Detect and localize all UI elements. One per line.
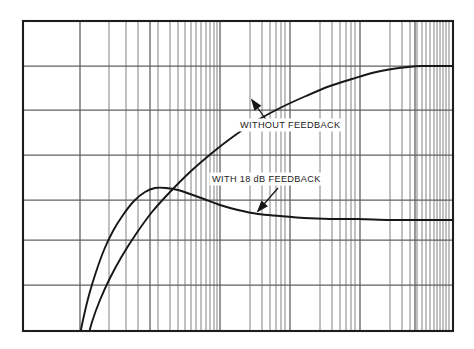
frequency-response-chart: WITHOUT FEEDBACK WITH 18 dB FEEDBACK (0, 0, 474, 349)
annotation-without-feedback: WITHOUT FEEDBACK (238, 119, 344, 132)
annotation-without-feedback-label: WITHOUT FEEDBACK (240, 120, 341, 130)
chart-canvas: WITHOUT FEEDBACK WITH 18 dB FEEDBACK (0, 0, 474, 349)
annotation-with-18db-feedback-label: WITH 18 dB FEEDBACK (212, 174, 321, 184)
annotation-with-feedback: WITH 18 dB FEEDBACK (210, 173, 324, 186)
